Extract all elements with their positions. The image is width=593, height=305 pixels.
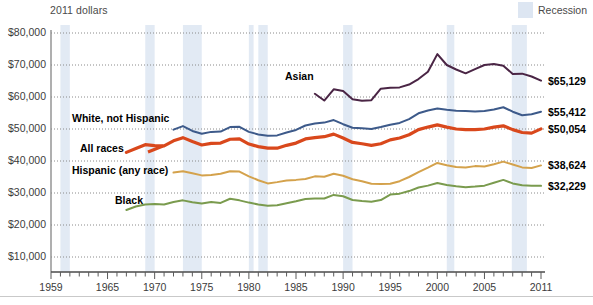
end-value-white-not-hispanic: $55,412 xyxy=(548,106,586,118)
end-value-all-races: $50,054 xyxy=(548,123,586,135)
recession-band xyxy=(447,25,455,272)
x-axis-tick-label: 1980 xyxy=(229,281,269,293)
x-axis-tick-label: 1985 xyxy=(276,281,316,293)
recession-band xyxy=(183,25,202,272)
end-value-black: $32,229 xyxy=(548,180,586,192)
recession-band xyxy=(60,25,69,272)
x-axis-tick-label: 1959 xyxy=(31,281,71,293)
series-line-white-not-hispanic xyxy=(174,107,542,135)
recession-band xyxy=(512,25,527,272)
recession-bands xyxy=(60,25,526,272)
x-axis-tick-label: 2000 xyxy=(417,281,457,293)
x-axis-tick-label: 1995 xyxy=(370,281,410,293)
end-value-hispanic-any-race: $38,624 xyxy=(548,159,586,171)
x-axis-tick-label: 1975 xyxy=(182,281,222,293)
series-line-hispanic-any-race xyxy=(174,162,542,184)
gridlines xyxy=(51,33,545,257)
x-axis-ticks xyxy=(51,272,541,279)
recession-band xyxy=(343,25,352,272)
x-axis-tick-label: 2005 xyxy=(464,281,504,293)
income-by-race-line-chart: 2011 dollars Recession $80,000$70,000$60… xyxy=(0,0,593,305)
end-value-asian: $65,129 xyxy=(548,75,586,87)
x-axis-tick-label: 1990 xyxy=(323,281,363,293)
series-label-black: Black xyxy=(115,194,143,206)
footer-divider xyxy=(0,296,593,297)
recession-band xyxy=(249,25,254,272)
series-label-hispanic-any-race: Hispanic (any race) xyxy=(72,164,168,176)
x-axis-tick-label: 2011 xyxy=(521,281,561,293)
series-label-all-races: All races xyxy=(80,142,124,154)
series-label-asian: Asian xyxy=(285,70,314,82)
x-axis-tick-label: 1970 xyxy=(135,281,175,293)
series-label-white-not-hispanic: White, not Hispanic xyxy=(72,112,169,124)
x-axis-tick-label: 1965 xyxy=(88,281,128,293)
